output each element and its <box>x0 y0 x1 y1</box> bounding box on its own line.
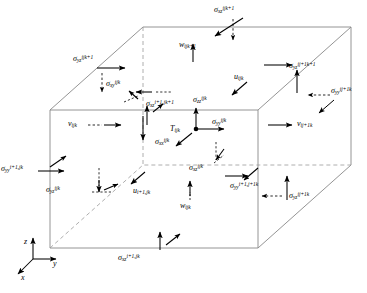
arrow-group-sigma-yy-ij1k <box>308 95 334 113</box>
sigma-superscript: ijk <box>201 95 206 101</box>
sigma-superscript: i+1,j+1k <box>239 181 258 187</box>
velocity-subscript: i+1,jk <box>137 189 150 195</box>
label-sigma-xx-ijk: σxxijk <box>155 138 169 147</box>
arrow-group-sigma-yy-i1j1k <box>225 168 258 180</box>
velocity-subscript: ijk+1 <box>184 43 196 49</box>
sigma-superscript: i+1,jk+1 <box>154 99 173 105</box>
arrow-group-sigma-xz-i1jk <box>160 232 180 250</box>
arrow-group-sigma-xz-i1jk1 <box>143 104 163 140</box>
arrow-group-sigma-xz-ijk <box>214 142 224 163</box>
arrow-u-i1jk <box>131 172 145 184</box>
label-sigma-yy-i1j1k: σyyi+1,j+1k <box>230 182 258 191</box>
label-sigma-xz-ijk1-top: σxzijk+1 <box>214 6 234 15</box>
arrow-group-sigma-yz-ijk <box>92 168 118 192</box>
sigma-superscript: ijk <box>115 79 120 85</box>
sigma-superscript: ijk <box>197 163 202 169</box>
label-sigma-yz-ijk1-left: σyzijk+1 <box>73 55 93 64</box>
sigma-superscript: ij+1k+1 <box>297 61 315 67</box>
label-u-i1jk: ui+1,jk <box>133 187 150 196</box>
sigma-superscript: ijk+1 <box>222 5 234 11</box>
axis-x-text: x <box>21 273 25 282</box>
label-sigma-yy-ijk-center: σyyijk <box>212 118 226 127</box>
velocity-subscript: ij+1k <box>301 122 313 128</box>
label-v-ijk: vijk <box>68 120 77 129</box>
sigma-superscript: i+1,jk <box>126 253 139 259</box>
sigma-superscript: ijk <box>221 117 226 123</box>
label-sigma-zz-ijk: σzzijk <box>193 96 207 105</box>
label-sigma-yz-ij1k1-right: σyzij+1k+1 <box>289 62 316 71</box>
velocity-subscript: ijk <box>185 204 190 210</box>
axis-label-x: x <box>21 274 25 282</box>
arrow-group-center <box>176 127 224 146</box>
label-w-ijk1: wijk+1 <box>179 41 196 50</box>
label-temperature-center: Tijk <box>170 125 180 134</box>
arrow-u-ijk <box>232 82 247 95</box>
label-v-ij1k: vij+1k <box>297 120 312 129</box>
arrow-group-sigma-yz-ij1k <box>262 176 287 200</box>
sigma-superscript: i+1,jk <box>10 164 23 170</box>
label-sigma-yz-ij1k-right: σyzij+1k <box>289 192 309 201</box>
label-sigma-xy-ijk: σxyijk <box>106 80 120 89</box>
velocity-subscript: ijk <box>238 75 243 81</box>
label-sigma-xz-ijk-lower: σxzijk <box>189 164 203 173</box>
sigma-superscript: ijk+1 <box>81 54 93 60</box>
axis-y-text: y <box>53 259 57 268</box>
diagram-canvas: σxzijk+1 σyzijk+1 σyzij+1k+1 σyyij+1k σx… <box>0 0 367 293</box>
label-sigma-yy-ij1k-right: σyyij+1k <box>331 87 351 96</box>
sigma-superscript: ij+1k <box>340 86 352 92</box>
arrow-group-sigma-yy-i1jk <box>38 156 66 171</box>
label-sigma-yz-ijk-lower: σyzijk <box>46 186 60 195</box>
axis-label-z: z <box>24 238 27 246</box>
sigma-superscript: ijk <box>164 137 169 143</box>
sigma-superscript: ij+1k <box>297 191 309 197</box>
label-u-ijk: uijk <box>234 73 243 82</box>
axis-z-text: z <box>24 237 27 246</box>
arrow-group-top <box>215 18 243 40</box>
label-sigma-xz-i1jk-bottom: σxzi+1,jk <box>118 254 140 263</box>
sigma-superscript: ijk <box>54 185 59 191</box>
velocity-subscript: ijk <box>72 122 77 128</box>
label-w-ijk: wijk <box>180 202 191 211</box>
label-sigma-yy-i1jk-left: σyyi+1,jk <box>1 165 23 174</box>
temperature-subscript: ijk <box>174 127 179 133</box>
axis-label-y: y <box>53 260 57 268</box>
label-sigma-xz-i1jk1: σxzi+1,jk+1 <box>146 100 174 109</box>
